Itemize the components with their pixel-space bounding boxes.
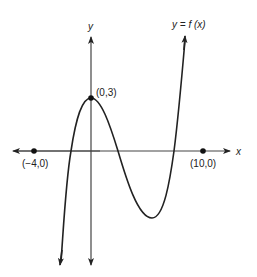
peak-label: (0,3) [96,87,117,98]
y-axis-label: y [87,21,94,32]
function-graph: y x y = f (x) (0,3) (−4,0) (10,0) [0,0,257,277]
function-label: y = f (x) [171,19,206,30]
left-point-label: (−4,0) [22,158,48,169]
point-peak [88,95,94,101]
curve-top-arrow [184,36,185,50]
curve-bottom-arrow [60,250,62,265]
x-axis-label: x [235,146,242,157]
point-left [31,148,37,154]
right-point-label: (10,0) [190,158,216,169]
point-right [200,148,206,154]
